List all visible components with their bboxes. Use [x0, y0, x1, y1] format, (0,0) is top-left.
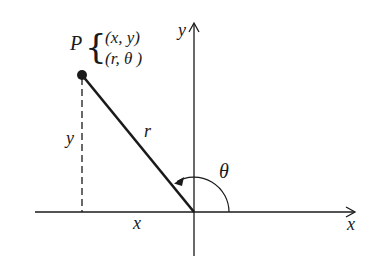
y-axis-label: y [176, 20, 186, 40]
radius-label: r [144, 121, 152, 141]
polar-coordinates-diagram: P { (x, y) (r, θ ) y x x y r θ [0, 0, 380, 277]
angle-arc [177, 177, 229, 212]
x-distance-label: x [132, 213, 141, 233]
rect-coords-label: (x, y) [105, 28, 140, 47]
radius-line [82, 75, 194, 212]
point-label: P [69, 32, 82, 54]
angle-arrow-icon [174, 177, 184, 186]
x-axis-label: x [346, 214, 355, 234]
angle-label: θ [219, 160, 229, 182]
brace-icon: { [85, 26, 107, 66]
y-distance-label: y [64, 128, 74, 148]
point-p [77, 70, 87, 80]
polar-coords-label: (r, θ ) [105, 49, 142, 68]
